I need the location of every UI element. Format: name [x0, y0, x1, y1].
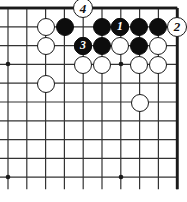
star-point-left-upper — [6, 62, 11, 67]
star-point-bottom — [119, 175, 124, 180]
star-point-left-lower — [6, 175, 11, 180]
move-number-label: 1 — [117, 21, 123, 33]
move-number-label: 4 — [80, 2, 87, 15]
star-point-center — [119, 62, 124, 67]
move-number-label: 3 — [80, 40, 86, 52]
go-diagram: 1342 — [0, 0, 187, 202]
move-number-label: 2 — [174, 20, 181, 33]
